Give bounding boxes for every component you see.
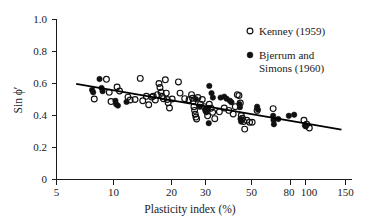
data-point [90,90,95,95]
x-tick-label-30: 30 [200,186,212,198]
y-axis-title: Sin ϕ′ [12,87,25,114]
y-tick-label-0.6: 0.6 [33,77,47,89]
x-axis-tick-labels: 5 10 20 30 50 80 100 150 [54,186,355,198]
data-point [176,79,182,85]
scatter-plot: 1.0 0.8 0.6 0.4 0.2 0 5 10 20 30 50 80 1 [0,0,367,223]
x-tick-label-100: 100 [301,186,318,198]
legend-marker-open-circle-icon [247,28,253,34]
data-point [115,103,120,108]
data-point [137,75,143,81]
data-point [242,126,248,132]
legend-label-bjerrum-line1: Bjerrum and [259,49,315,61]
data-point [104,76,110,82]
legend-marker-filled-circle-icon [247,52,253,58]
legend-label-bjerrum-line2: Simons (1960) [259,62,324,75]
x-axis-ticks [57,180,346,186]
data-point [146,102,152,108]
y-tick-label-0: 0 [42,173,48,185]
data-point [229,100,234,105]
x-axis-title: Plasticity index (%) [144,203,236,216]
y-axis-ticks [52,20,57,180]
x-tick-label-150: 150 [337,186,354,198]
y-tick-label-1.0: 1.0 [33,13,47,25]
data-point [271,122,276,127]
legend-label-kenney: Kenney (1959) [259,25,326,38]
data-points-layer [89,75,312,132]
data-point [156,81,162,87]
data-point [255,107,260,112]
y-tick-label-0.4: 0.4 [33,109,47,121]
y-tick-label-0.2: 0.2 [33,141,47,153]
data-point [162,77,168,83]
y-axis-tick-labels: 1.0 0.8 0.6 0.4 0.2 0 [33,13,47,185]
data-point [210,95,215,100]
data-point [177,90,183,96]
legend: Kenney (1959) Bjerrum and Simons (1960) [247,25,326,75]
x-tick-label-50: 50 [246,186,258,198]
x-tick-label-20: 20 [166,186,178,198]
data-point [124,99,129,104]
x-tick-label-80: 80 [284,186,296,198]
data-point [206,120,211,125]
data-point [193,96,198,101]
data-point [237,104,242,109]
data-point [286,113,291,118]
data-point [91,96,97,102]
data-point [291,112,296,117]
data-point [207,83,212,88]
data-point [97,76,102,81]
data-point [212,116,218,122]
data-point [167,105,173,111]
x-tick-label-10: 10 [108,186,120,198]
chart-figure: 1.0 0.8 0.6 0.4 0.2 0 5 10 20 30 50 80 1 [0,0,367,223]
data-point [238,119,243,124]
data-point [270,106,276,112]
x-tick-label-5: 5 [54,186,60,198]
y-tick-label-0.8: 0.8 [33,45,47,57]
